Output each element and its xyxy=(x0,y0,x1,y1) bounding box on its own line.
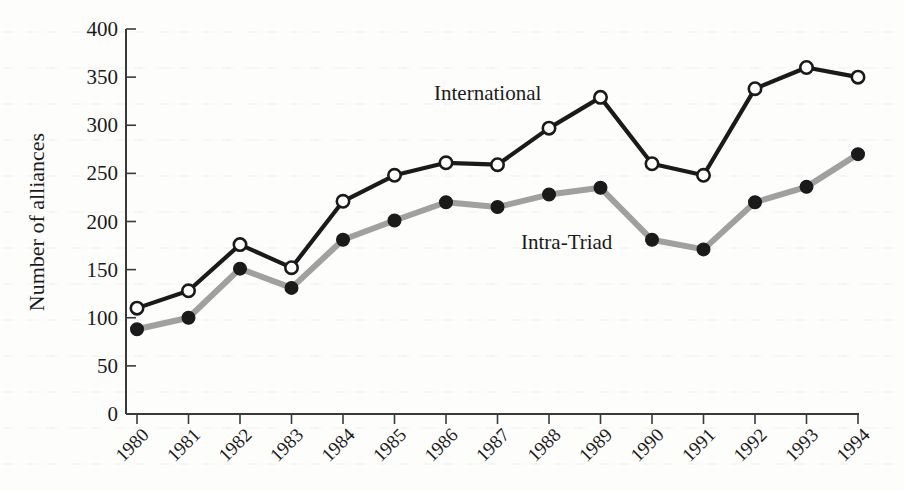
data-point-marker xyxy=(182,311,195,324)
chart-figure: Number of alliances 05010015020025030035… xyxy=(0,0,904,491)
x-tick-label: 1982 xyxy=(214,424,256,466)
data-point-marker xyxy=(749,196,762,209)
y-tick-label: 100 xyxy=(87,306,119,330)
x-tick-label: 1987 xyxy=(472,424,514,466)
data-point-marker xyxy=(800,61,812,73)
data-point-marker xyxy=(594,181,607,194)
x-tick-label: 1994 xyxy=(832,424,874,466)
data-point-marker xyxy=(337,195,349,207)
line-chart: Number of alliances 05010015020025030035… xyxy=(0,0,904,491)
x-tick-label: 1990 xyxy=(626,424,668,466)
x-tick-label: 1993 xyxy=(781,424,823,466)
data-point-marker xyxy=(131,302,143,314)
data-point-marker xyxy=(697,243,710,256)
data-point-marker xyxy=(440,157,452,169)
y-axis-ticks: 050100150200250300350400 xyxy=(87,17,137,426)
data-point-marker xyxy=(852,71,864,83)
x-tick-label: 1988 xyxy=(523,424,565,466)
y-tick-label: 50 xyxy=(97,354,118,378)
data-point-marker xyxy=(800,180,813,193)
y-tick-label: 350 xyxy=(87,65,119,89)
y-tick-label: 150 xyxy=(87,258,119,282)
data-point-marker xyxy=(182,285,194,297)
y-axis-title: Number of alliances xyxy=(24,133,49,311)
x-tick-label: 1992 xyxy=(729,424,771,466)
data-point-marker xyxy=(388,169,400,181)
data-point-marker xyxy=(388,214,401,227)
data-point-marker xyxy=(337,233,350,246)
data-point-marker xyxy=(491,159,503,171)
data-point-marker xyxy=(491,201,504,214)
data-point-marker xyxy=(594,91,606,103)
data-point-marker xyxy=(749,82,761,94)
data-point-marker xyxy=(234,238,246,250)
x-tick-label: 1986 xyxy=(420,424,462,466)
data-point-marker xyxy=(285,262,297,274)
data-point-marker xyxy=(285,282,298,295)
data-point-marker xyxy=(131,323,144,336)
x-tick-label: 1983 xyxy=(266,424,308,466)
y-tick-label: 400 xyxy=(87,17,119,41)
y-tick-label: 300 xyxy=(87,113,119,137)
x-tick-label: 1984 xyxy=(317,424,359,466)
data-point-marker xyxy=(440,196,453,209)
series-annotation-intra-triad: Intra-Triad xyxy=(521,230,613,254)
data-point-marker xyxy=(646,158,658,170)
y-tick-label: 250 xyxy=(87,161,119,185)
x-tick-label: 1985 xyxy=(369,424,411,466)
data-point-marker xyxy=(543,122,555,134)
data-point-marker xyxy=(697,169,709,181)
y-tick-label: 0 xyxy=(108,402,119,426)
x-tick-label: 1980 xyxy=(111,424,153,466)
x-tick-label: 1989 xyxy=(575,424,617,466)
series-annotation-international: International xyxy=(434,81,541,105)
x-tick-label: 1991 xyxy=(678,424,720,466)
y-tick-label: 200 xyxy=(87,210,119,234)
x-tick-label: 1981 xyxy=(163,424,205,466)
data-point-marker xyxy=(543,188,556,201)
x-axis-ticks: 1980198119821983198419851986198719881989… xyxy=(111,414,874,466)
data-point-marker xyxy=(646,233,659,246)
data-point-marker xyxy=(234,262,247,275)
data-point-marker xyxy=(852,148,865,161)
